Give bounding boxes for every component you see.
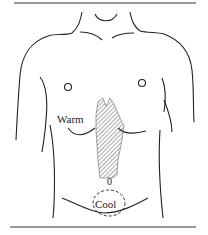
- body-diagram: Warm 0 Cool: [0, 0, 208, 235]
- left-nipple: [65, 84, 72, 91]
- navel-marker: 0: [107, 176, 112, 187]
- right-nipple: [139, 80, 146, 87]
- warm-label: Warm: [57, 113, 84, 125]
- warm-hatched-region: [96, 98, 124, 178]
- cool-label: Cool: [95, 198, 116, 210]
